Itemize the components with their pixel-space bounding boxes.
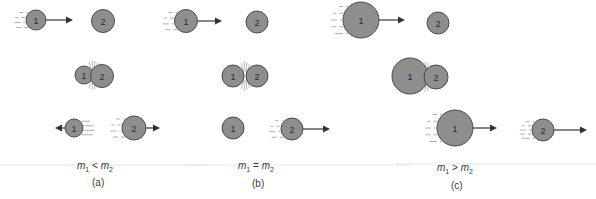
relation-operator: > <box>452 162 458 173</box>
mass-subscript: 1 <box>445 168 449 175</box>
ball-number: 2 <box>540 126 545 136</box>
ball-2: 2 <box>427 12 449 34</box>
ball-2: 2 <box>246 65 268 87</box>
stage-collision: 12 <box>222 61 268 91</box>
ball-2: 2 <box>424 65 448 89</box>
panel-c: 121212 <box>331 2 596 164</box>
ball-1: 1 <box>331 2 405 38</box>
ball-1: 1 <box>14 10 73 30</box>
ball-1: 1 <box>163 10 222 33</box>
mass-symbol: m <box>461 162 469 173</box>
mass-subscript: 1 <box>246 166 250 173</box>
arrow-head-icon <box>66 17 73 24</box>
ball-number: 2 <box>435 19 440 29</box>
stage-after: 12 <box>425 110 587 146</box>
ball-number: 2 <box>131 124 136 134</box>
ball-2: 2 <box>246 11 268 33</box>
ball-1: 1 <box>222 117 244 139</box>
ball-1: 1 <box>222 65 244 87</box>
mass-subscript: 2 <box>270 166 274 173</box>
arrow-head-icon <box>398 17 405 24</box>
stage-after: 12 <box>222 117 330 140</box>
mass-relation-b: m1 = m2 <box>238 160 274 173</box>
mass-subscript: 2 <box>469 168 473 175</box>
arrow-head-icon <box>153 125 160 132</box>
impact-burst-line <box>246 62 247 72</box>
panel-label-b: (b) <box>252 178 264 189</box>
impact-burst-line <box>244 61 245 71</box>
ball-1: 1 <box>55 119 95 137</box>
impact-burst-line <box>246 80 247 90</box>
stage-before: 12 <box>163 10 268 34</box>
ball-2: 2 <box>110 116 160 140</box>
mass-symbol: m <box>101 160 109 171</box>
arrow-head-icon <box>580 127 587 134</box>
ball-number: 1 <box>452 124 457 134</box>
mass-symbol: m <box>262 160 270 171</box>
arrow-head-icon <box>215 18 222 25</box>
stage-collision: 12 <box>392 58 448 94</box>
panel-label-c: (c) <box>451 180 463 191</box>
mass-subscript: 2 <box>109 166 113 173</box>
ball-number: 1 <box>71 124 76 134</box>
ball-number: 1 <box>81 71 86 81</box>
relation-operator: = <box>253 160 259 171</box>
ball-number: 1 <box>407 72 412 82</box>
ball-number: 2 <box>254 72 259 82</box>
panel-a: 121212 <box>0 10 205 166</box>
mass-relation-a: m1 < m2 <box>77 160 113 173</box>
ball-number: 2 <box>433 73 438 83</box>
ball-number: 2 <box>99 72 104 82</box>
ball-number: 2 <box>289 125 294 135</box>
arrow-head-icon <box>55 125 62 132</box>
impact-burst-line <box>244 81 245 91</box>
stage-after: 12 <box>55 116 160 140</box>
ball-2: 2 <box>92 10 115 33</box>
ball-number: 2 <box>100 17 105 27</box>
ball-2: 2 <box>91 65 114 88</box>
arrow-head-icon <box>490 125 497 132</box>
ball-number: 1 <box>358 16 363 26</box>
stage-before: 12 <box>331 2 449 38</box>
ball-number: 1 <box>183 17 188 27</box>
panel-label-a: (a) <box>92 177 104 188</box>
stage-collision: 12 <box>75 60 114 90</box>
ball-2: 2 <box>520 119 587 141</box>
ball-number: 2 <box>254 18 259 28</box>
relation-operator: < <box>92 160 98 171</box>
ball-1: 1 <box>392 58 428 94</box>
arrow-head-icon <box>323 126 330 133</box>
ball-2: 2 <box>269 118 330 140</box>
ball-number: 1 <box>230 124 235 134</box>
ball-number: 1 <box>230 72 235 82</box>
stage-before: 12 <box>14 10 114 33</box>
mass-subscript: 1 <box>85 166 89 173</box>
ball-1: 1 <box>425 110 497 146</box>
mass-relation-c: m1 > m2 <box>437 162 473 175</box>
ball-number: 1 <box>33 16 38 26</box>
